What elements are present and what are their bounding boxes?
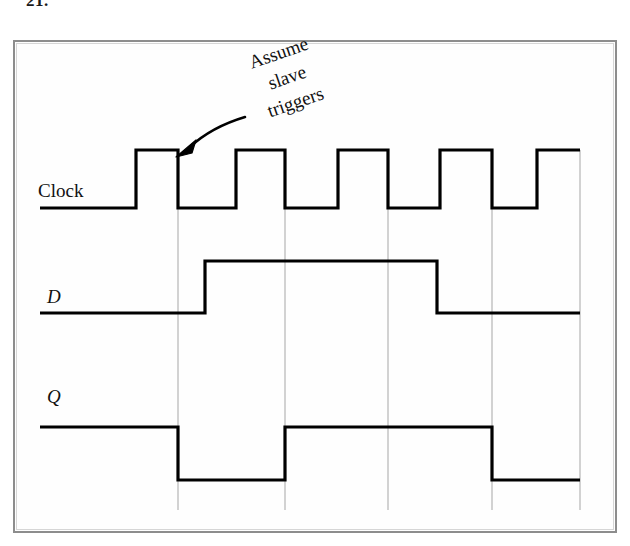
gridlines-group — [178, 150, 580, 510]
signal-label-clock: Clock — [38, 180, 83, 202]
signal-label-d: D — [47, 286, 61, 308]
signal-label-q: Q — [47, 386, 61, 408]
waveform-clock — [40, 150, 580, 208]
figure-page: 21. Clock D Q Assume slave triggers — [0, 0, 630, 546]
waveform-q — [40, 427, 580, 480]
waveform-d — [40, 261, 580, 313]
